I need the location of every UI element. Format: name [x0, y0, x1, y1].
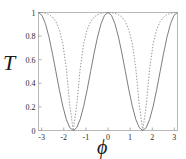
- y-tick-label: 1: [32, 9, 36, 18]
- x-tick-label: -1: [83, 133, 90, 142]
- x-tick-label: 1: [128, 133, 132, 142]
- x-tick-label: -3: [38, 133, 45, 142]
- chart-figure: -3-2-10123 00.20.40.60.81 T ϕ: [0, 0, 186, 159]
- x-tick-label: -2: [60, 133, 67, 142]
- x-axis-label: ϕ: [97, 137, 107, 157]
- x-tick-label: 2: [150, 133, 154, 142]
- x-tick-label: 3: [172, 133, 176, 142]
- y-tick-label: 0.8: [26, 32, 36, 41]
- y-tick-label: 0.2: [26, 103, 36, 112]
- y-tick-label: 0.6: [26, 56, 36, 65]
- plot-canvas: -3-2-10123 00.20.40.60.81: [0, 0, 186, 159]
- y-tick-label: 0: [32, 127, 36, 136]
- y-axis-tick-labels: 00.20.40.60.81: [26, 9, 36, 136]
- y-axis-label: T: [3, 52, 15, 74]
- y-tick-label: 0.4: [26, 79, 36, 88]
